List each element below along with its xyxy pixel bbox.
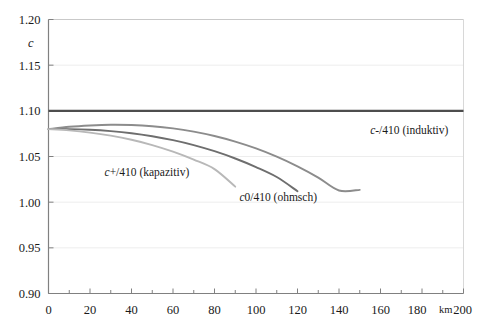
x-tick-label: 60 xyxy=(167,303,180,317)
y-tick-label: 0.90 xyxy=(19,287,41,301)
x-tick-label: 200 xyxy=(453,303,472,317)
chart-container: 020406080100120140160180200 0.900.951.00… xyxy=(0,0,484,334)
y-tick-label: 1.20 xyxy=(19,13,41,27)
x-tick-label: 180 xyxy=(408,303,427,317)
y-tick-label: 0.95 xyxy=(19,241,41,255)
x-tick-label: 80 xyxy=(208,303,221,317)
line-chart: 020406080100120140160180200 0.900.951.00… xyxy=(0,0,484,334)
x-tick-label: 20 xyxy=(84,303,97,317)
x-tick-label: 40 xyxy=(125,303,138,317)
x-tick-label: 100 xyxy=(247,303,266,317)
label-ohmsch: c0/410 (ohmsch) xyxy=(239,191,317,204)
x-tick-label: 160 xyxy=(371,303,390,317)
chart-background xyxy=(0,0,484,334)
y-tick-label: 1.15 xyxy=(19,59,41,73)
y-axis-title: c xyxy=(28,36,34,50)
x-tick-label: 120 xyxy=(288,303,307,317)
label-induktiv: c-/410 (induktiv) xyxy=(370,124,448,137)
y-tick-label: 1.00 xyxy=(19,196,41,210)
x-axis-unit-label: km xyxy=(439,304,452,315)
label-kapazitiv: c+/410 (kapazitiv) xyxy=(105,166,190,179)
x-tick-label: 140 xyxy=(330,303,349,317)
y-tick-label: 1.05 xyxy=(19,150,41,164)
y-tick-label: 1.10 xyxy=(19,104,41,118)
x-tick-label: 0 xyxy=(45,303,51,317)
